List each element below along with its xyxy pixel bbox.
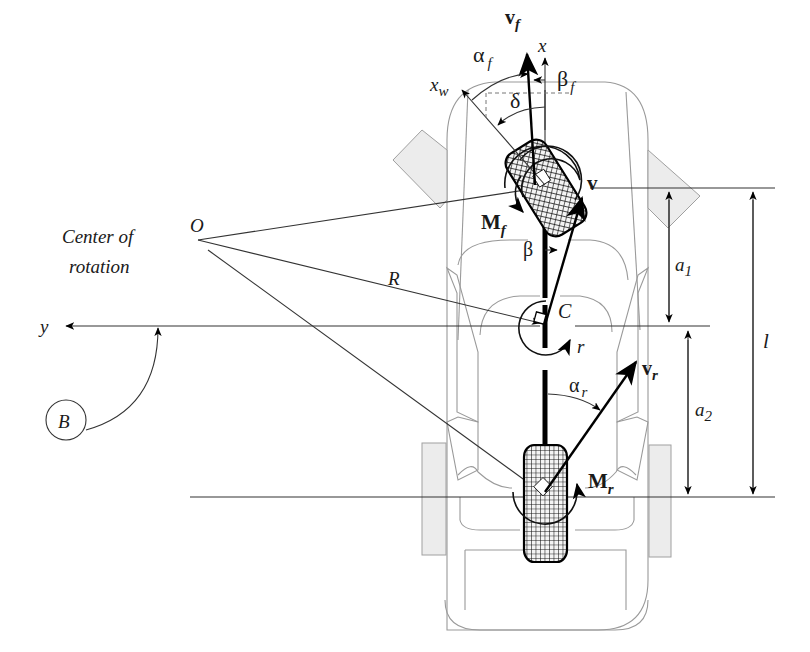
front-angles: αf βf δ <box>472 42 576 125</box>
v-r-label: vr <box>642 357 658 383</box>
a1-label: a1 <box>675 254 692 279</box>
beta-f-label: βf <box>557 66 576 95</box>
center-of-rotation-label-line2: rotation <box>69 256 130 277</box>
y-axis: y <box>38 316 540 337</box>
c-label: C <box>558 300 572 322</box>
a2-label: a2 <box>695 399 713 424</box>
alpha-r-label: αr <box>569 374 587 400</box>
reference-lines <box>190 188 775 497</box>
o-label: O <box>190 215 204 236</box>
delta-label: δ <box>510 88 520 113</box>
v-label: v <box>587 171 598 195</box>
vehicle-dynamics-diagram: y B Center of rotation O R C r <box>0 0 810 652</box>
beta-label: β <box>523 238 533 261</box>
dimension-a2: a2 <box>688 331 713 494</box>
r-radius-label: R <box>387 268 400 289</box>
m-r-label: Mr <box>588 469 614 497</box>
wheel-x-axis-label: xw <box>429 74 448 99</box>
alpha-f-label: αf <box>473 42 494 71</box>
yaw-rate-label: r <box>577 336 585 357</box>
x-axis-label: x <box>537 35 547 56</box>
center-of-gravity: C r <box>519 300 585 357</box>
b-frame-label: B <box>58 411 70 432</box>
m-f-label: Mf <box>481 210 508 238</box>
center-of-rotation-label-line1: Center of <box>62 226 136 247</box>
dimension-l: l <box>753 192 769 494</box>
center-of-rotation: Center of rotation O R <box>62 187 545 492</box>
y-axis-label: y <box>38 316 49 337</box>
front-wheel <box>501 135 591 241</box>
v-f-label: vf <box>505 6 522 32</box>
body-frame-indicator: B <box>46 328 158 440</box>
wheelbase-label: l <box>763 329 769 353</box>
rear-wheel: Mr <box>513 445 614 562</box>
